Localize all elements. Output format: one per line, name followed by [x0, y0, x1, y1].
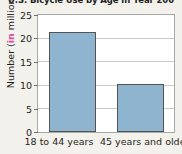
y-axis-tick-mark: [34, 109, 38, 110]
x-axis-label: 18 to 44 years: [18, 136, 100, 147]
y-axis-tick-label: 5: [26, 103, 32, 114]
y-axis-label-prefix: Number (: [5, 43, 16, 88]
y-axis-tick-label: 10: [20, 80, 32, 91]
x-axis-label: 45 years and older: [100, 136, 182, 147]
y-axis-tick-label: 25: [20, 10, 32, 21]
y-axis-tick-label: 20: [20, 33, 32, 44]
y-axis-tick-mark: [34, 15, 38, 16]
chart-title: U.S. Bicycle Use by Age in Year 200: [0, 0, 182, 5]
y-axis-tick-mark: [34, 62, 38, 63]
x-axis-labels: 18 to 44 years45 years and older: [18, 136, 182, 150]
y-axis-tick-mark: [34, 38, 38, 39]
y-axis-tick-mark: [34, 85, 38, 86]
y-axis-tick-label: 15: [20, 56, 32, 67]
y-axis-label-highlight: in: [5, 33, 16, 43]
bar: [49, 32, 96, 132]
y-axis-label: Number (in millions): [5, 0, 17, 91]
chart-figure: U.S. Bicycle Use by Age in Year 200 Numb…: [0, 0, 182, 154]
y-axis-tick-mark: [34, 132, 38, 133]
plot-area: 0510152025: [37, 14, 175, 133]
y-axis-label-suffix: millions): [5, 0, 16, 33]
bar: [117, 84, 164, 132]
